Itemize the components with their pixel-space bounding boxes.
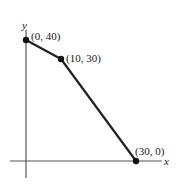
point-label-0-40: (0, 40) bbox=[31, 30, 61, 43]
point-label-30-0: (30, 0) bbox=[135, 145, 165, 158]
point-0-40 bbox=[23, 37, 29, 43]
graph: y x (0, 40) (10, 30) (30, 0) bbox=[0, 0, 179, 184]
y-axis-label: y bbox=[21, 19, 27, 31]
point-30-0 bbox=[133, 158, 139, 164]
point-label-10-30: (10, 30) bbox=[66, 52, 101, 65]
point-10-30 bbox=[58, 56, 64, 62]
